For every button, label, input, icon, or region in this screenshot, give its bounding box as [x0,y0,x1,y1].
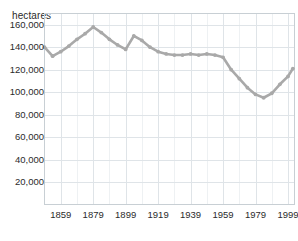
chart-container: hectares 20,00040,00060,00080,000100,000… [0,0,298,241]
x-axis-tick-label: 1959 [212,209,233,220]
x-axis-tick-label: 1979 [245,209,266,220]
x-axis-tick-label: 1939 [180,209,201,220]
x-axis-tick-label: 1879 [83,209,104,220]
x-axis-tick-labels: 18591879189919191939195919791999 [0,0,298,241]
x-axis-tick-label: 1919 [148,209,169,220]
x-axis-tick-label: 1899 [115,209,136,220]
x-axis-tick-label: 1999 [277,209,298,220]
x-axis-tick-label: 1859 [50,209,71,220]
